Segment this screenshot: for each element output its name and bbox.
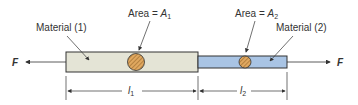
cross-section-2 bbox=[239, 56, 251, 68]
two-material-bar-diagram: F F Material (1) Area = A1 Area = A2 Mat… bbox=[0, 0, 358, 105]
left-force-label: F bbox=[12, 57, 19, 68]
right-force-label: F bbox=[337, 57, 344, 68]
area-2-leader bbox=[246, 21, 255, 52]
cross-section-1 bbox=[128, 54, 145, 71]
svg-text:l2: l2 bbox=[240, 85, 246, 97]
area-1-label: Area = A1 bbox=[128, 8, 171, 20]
area-1-leader bbox=[139, 21, 150, 50]
material-1-label: Material (1) bbox=[36, 22, 87, 33]
dimension-l2: l2 bbox=[200, 85, 285, 97]
area-2-label: Area = A2 bbox=[235, 8, 278, 20]
svg-text:l1: l1 bbox=[128, 85, 134, 97]
dimension-l1: l1 bbox=[68, 85, 196, 97]
material-2-label: Material (2) bbox=[276, 22, 327, 33]
